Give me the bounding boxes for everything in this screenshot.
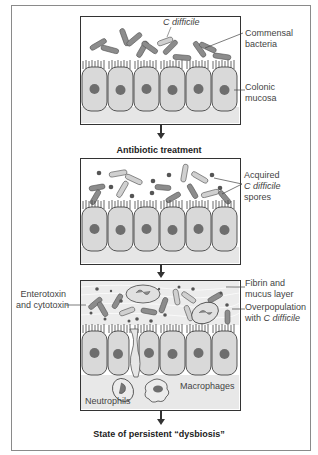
arrow-down-3 <box>160 411 162 420</box>
label-neutrophils: Neutrophils <box>85 396 131 407</box>
label-macrophages: Macrophages <box>180 381 235 392</box>
post-antibiotic-illustration <box>81 159 239 263</box>
arrow-down-2 <box>160 265 162 273</box>
label-enterotoxin-cytotoxin: Enterotoxinand cytotoxin <box>16 289 66 311</box>
panel-post-antibiotic <box>80 158 241 265</box>
caption-antibiotic-treatment: Antibiotic treatment <box>0 145 318 155</box>
label-overpopulation: Overpopulationwith C difficile <box>245 302 306 324</box>
arrow-down-1 <box>160 125 162 134</box>
leader-line-spores <box>212 176 244 196</box>
caption-dysbiosis: State of persistent “dysbiosis” <box>0 429 318 439</box>
label-fibrin-mucus: Fibrin andmucus layer <box>245 278 294 300</box>
label-c-difficile: C difficile <box>163 17 200 28</box>
leader-line-fibrin <box>226 284 246 290</box>
leader-line-overpopulation <box>232 307 246 311</box>
label-colonic-mucosa: Colonicmucosa <box>245 82 277 104</box>
leader-line-commensal <box>205 30 245 50</box>
label-acquired-spores: AcquiredC difficilespores <box>244 170 281 203</box>
label-commensal-bacteria: Commensalbacteria <box>245 28 293 50</box>
